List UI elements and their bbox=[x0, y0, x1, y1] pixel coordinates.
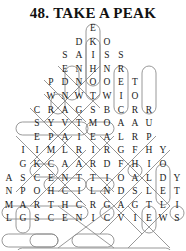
grid-cell: E bbox=[114, 76, 128, 90]
grid-cell: H bbox=[44, 185, 58, 199]
grid-cell: T bbox=[86, 90, 100, 104]
grid-cell: W bbox=[44, 90, 58, 104]
grid-cell: O bbox=[100, 117, 114, 131]
grid-cell: A bbox=[58, 104, 72, 118]
grid-cell: V bbox=[114, 212, 128, 226]
grid-row: W N W T W I O bbox=[0, 90, 186, 104]
grid-cell: D bbox=[72, 36, 86, 50]
grid-cell: S bbox=[170, 212, 184, 226]
grid-cell: O bbox=[30, 185, 44, 199]
grid-cell: G bbox=[114, 144, 128, 158]
grid-cell: S bbox=[30, 117, 44, 131]
word-search-puzzle: 48. TAKE A PEAK bbox=[0, 0, 186, 251]
grid-cell: K bbox=[86, 36, 100, 50]
grid-cell: I bbox=[142, 158, 156, 172]
grid-cell: S bbox=[128, 185, 142, 199]
grid-cell: N bbox=[100, 63, 114, 77]
page-title: 48. TAKE A PEAK bbox=[0, 0, 186, 21]
grid-row: S A I S S bbox=[0, 49, 186, 63]
grid-cell: I bbox=[86, 49, 100, 63]
grid-cell: Y bbox=[44, 117, 58, 131]
grid-cell: B bbox=[100, 104, 114, 118]
grid-cell: H bbox=[142, 144, 156, 158]
grid-cell: E bbox=[86, 22, 100, 36]
grid-cell: A bbox=[2, 172, 16, 186]
grid-cell: A bbox=[58, 158, 72, 172]
grid-cell: T bbox=[44, 199, 58, 213]
grid-cell: A bbox=[58, 131, 72, 145]
grid-cell: E bbox=[86, 131, 100, 145]
grid-cell: A bbox=[128, 172, 142, 186]
grid-cell: M bbox=[44, 144, 58, 158]
grid-cell: N bbox=[72, 63, 86, 77]
grid-row: P D N O O E T bbox=[0, 76, 186, 90]
grid-cell: U bbox=[142, 117, 156, 131]
grid-cell: D bbox=[58, 76, 72, 90]
grid-cell: I bbox=[86, 144, 100, 158]
grid-row: N P O H C I L N D S L E T bbox=[0, 185, 186, 199]
grid-cell: H bbox=[58, 199, 72, 213]
grid-cell: Y bbox=[156, 144, 170, 158]
grid-cell: G bbox=[72, 104, 86, 118]
grid-cell: I bbox=[100, 172, 114, 186]
grid-cell: R bbox=[128, 131, 142, 145]
grid-cell: T bbox=[72, 117, 86, 131]
grid-cell: I bbox=[114, 90, 128, 104]
grid-cell: E bbox=[58, 212, 72, 226]
grid-cell: R bbox=[86, 158, 100, 172]
grid-cell: R bbox=[114, 63, 128, 77]
grid-cell: H bbox=[86, 63, 100, 77]
grid-cell: L bbox=[142, 172, 156, 186]
grid-cell: G bbox=[128, 199, 142, 213]
grid-cell: H bbox=[128, 158, 142, 172]
grid-cell: R bbox=[128, 104, 142, 118]
grid-cell: O bbox=[100, 76, 114, 90]
grid-cell: A bbox=[72, 49, 86, 63]
grid-row: E bbox=[0, 22, 186, 36]
grid-cell: E bbox=[142, 212, 156, 226]
grid-cell: F bbox=[114, 158, 128, 172]
grid-cell: A bbox=[100, 131, 114, 145]
grid-cell: O bbox=[156, 158, 170, 172]
grid-cell: I bbox=[86, 212, 100, 226]
grid-cell: E bbox=[58, 63, 72, 77]
grid-row: C R A G S B C R R bbox=[0, 104, 186, 118]
grid-row: E P A I E A L R P bbox=[0, 131, 186, 145]
grid-cell: V bbox=[58, 117, 72, 131]
grid-cell: A bbox=[114, 199, 128, 213]
grid-row: S Y V T M O A A U bbox=[0, 117, 186, 131]
grid-cell: A bbox=[72, 158, 86, 172]
grid-cell: R bbox=[100, 144, 114, 158]
grid-cell: G bbox=[100, 199, 114, 213]
grid-cell: W bbox=[72, 90, 86, 104]
grid-cell: S bbox=[114, 49, 128, 63]
grid-cell: R bbox=[142, 104, 156, 118]
grid-cell: N bbox=[58, 172, 72, 186]
grid-cell: L bbox=[142, 185, 156, 199]
grid-cell: L bbox=[114, 131, 128, 145]
grid-cell: R bbox=[86, 199, 100, 213]
grid-cell: L bbox=[86, 185, 100, 199]
grid-cell: M bbox=[86, 117, 100, 131]
grid-cell: C bbox=[44, 158, 58, 172]
grid-cell: N bbox=[58, 90, 72, 104]
grid-cell: M bbox=[2, 199, 16, 213]
grid-cell: S bbox=[30, 212, 44, 226]
grid-cell: E bbox=[44, 172, 58, 186]
grid-cell: R bbox=[72, 144, 86, 158]
grid-cell: I bbox=[170, 199, 184, 213]
grid-row: L G S C E N I C V I E W S bbox=[0, 212, 186, 226]
grid-cell: L bbox=[2, 212, 16, 226]
grid-row: A S C E N T T I O A L D Y bbox=[0, 172, 186, 186]
grid-cell: A bbox=[16, 199, 30, 213]
grid-cell: S bbox=[100, 49, 114, 63]
grid-cell: D bbox=[156, 172, 170, 186]
grid-cell: T bbox=[72, 172, 86, 186]
grid-cell: N bbox=[2, 185, 16, 199]
grid-cell: L bbox=[58, 144, 72, 158]
grid-row: G K C A A R D F H I O bbox=[0, 158, 186, 172]
grid-cell: P bbox=[44, 76, 58, 90]
grid-cell: C bbox=[44, 212, 58, 226]
grid-cell: C bbox=[30, 104, 44, 118]
grid-cell: R bbox=[44, 104, 58, 118]
